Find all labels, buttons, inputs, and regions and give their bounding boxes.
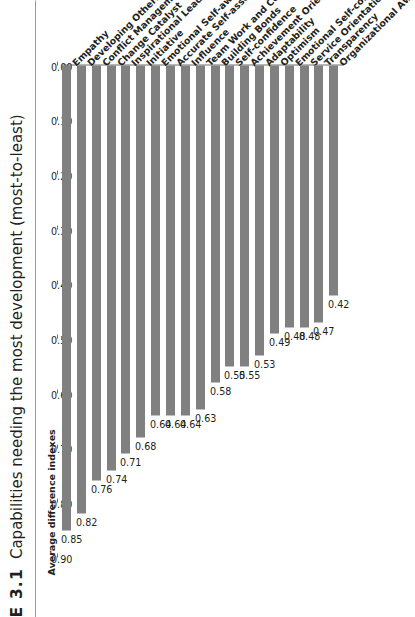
- bar-value-label: 0.55: [239, 369, 260, 380]
- bar: [62, 65, 71, 530]
- bar-value-label: 0.85: [61, 533, 82, 544]
- figure-caption-text: Capabilities needing the most developmen…: [8, 114, 26, 559]
- bar-value-label: 0.74: [106, 473, 127, 484]
- bar: [151, 65, 160, 415]
- bar: [211, 65, 220, 382]
- bar: [77, 65, 86, 513]
- bar: [196, 65, 205, 409]
- bar: [285, 65, 294, 327]
- bar-value-label: 0.53: [254, 358, 275, 369]
- bar: [225, 65, 234, 366]
- bar-value-label: 0.68: [135, 440, 156, 451]
- bar: [255, 65, 264, 355]
- bar-value-label: 0.63: [195, 412, 216, 423]
- bar-value-label: 0.58: [210, 385, 231, 396]
- bar: [300, 65, 309, 327]
- bar: [181, 65, 190, 415]
- bar: [92, 65, 101, 480]
- figure-number: E 3.1: [8, 568, 26, 617]
- bar: [166, 65, 175, 415]
- bar-series: 0.85Empathy0.82Developing Others0.76Conf…: [44, 0, 344, 617]
- caption-divider: [35, 0, 36, 617]
- bar: [314, 65, 323, 322]
- bar: [107, 65, 116, 470]
- bar-value-label: 0.82: [76, 516, 97, 527]
- bar-value-label: 0.47: [313, 325, 334, 336]
- bar-value-label: 0.76: [91, 483, 112, 494]
- bar: [270, 65, 279, 333]
- bar: [121, 65, 130, 453]
- figure-caption: E 3.1 Capabilities needing the most deve…: [0, 0, 34, 617]
- bar-chart: Average difference indexes 0.900.800.700…: [44, 0, 344, 617]
- bar-value-label: 0.71: [120, 456, 141, 467]
- bar-value-label: 0.42: [328, 298, 349, 309]
- bar: [329, 65, 338, 295]
- bar: [136, 65, 145, 437]
- bar: [240, 65, 249, 366]
